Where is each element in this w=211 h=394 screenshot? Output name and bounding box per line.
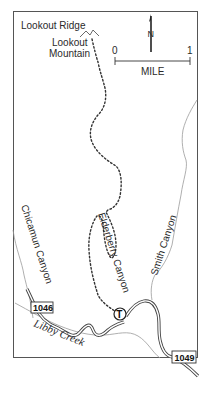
label-lookout-mountain-1: Lookout [52,37,88,48]
scale-unit: MILE [141,66,165,77]
road-shield-1049: 1049 [172,351,196,363]
road-shield-1046: 1046 [31,302,53,313]
label-lookout-ridge: Lookout Ridge [21,20,86,31]
scale-end: 1 [187,45,193,56]
scale-start: 0 [112,45,118,56]
svg-text:1046: 1046 [33,303,53,313]
north-label: N [148,29,155,39]
trailhead-marker: T [114,308,126,320]
trail-map: Lookout Ridge Lookout Mountain Chicamun … [0,0,211,394]
svg-text:1049: 1049 [175,353,195,363]
label-lookout-mountain-2: Mountain [49,48,90,59]
trailhead-icon: T [116,309,122,320]
